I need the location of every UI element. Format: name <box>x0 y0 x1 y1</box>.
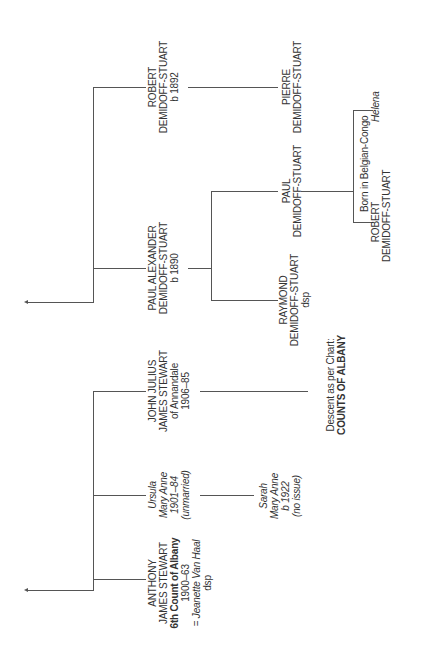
person-name: Sarah <box>258 444 269 548</box>
person-surname: JAMES STEWART <box>158 521 169 645</box>
connector <box>26 590 94 591</box>
person-surname: DEMIDOFF-STUART <box>158 204 169 332</box>
person-title: of Annandale <box>169 329 180 453</box>
person-title: 6th Count of Albany <box>169 521 180 645</box>
connector <box>301 191 353 192</box>
person-name: ROBERT <box>370 182 381 262</box>
bracket <box>353 110 354 223</box>
person-status: (no issue) <box>291 444 302 548</box>
person-surname: DEMIDOFF-STUART <box>381 182 392 262</box>
person-status: dsp <box>202 521 213 645</box>
person-surname: JAMES STEWART <box>158 329 169 453</box>
person-name: JOHN JULIUS <box>147 329 158 453</box>
person-anthony-james-stewart: ANTHONY JAMES STEWART 6th Count of Alban… <box>147 521 213 645</box>
person-middle-name: Mary Anne <box>269 444 280 548</box>
connector <box>93 87 94 303</box>
person-surname: DEMIDOFF-STUART <box>289 236 300 364</box>
person-dates: 1900–63 <box>180 521 191 645</box>
person-dates: b 1922 <box>280 444 291 548</box>
connector <box>211 300 278 301</box>
connector <box>188 268 212 269</box>
person-dates: dsp <box>300 236 311 364</box>
person-sarah-mary-anne: Sarah Mary Anne b 1922 (no issue) <box>258 444 302 548</box>
person-spouse: = Jeanette Van Haal <box>191 521 202 645</box>
person-surname: DEMIDOFF-STUART <box>158 24 169 150</box>
person-dates: b 1890 <box>169 204 180 332</box>
person-paul-alexander-demidoff-stuart: PAUL ALEXANDER DEMIDOFF-STUART b 1890 <box>147 204 180 332</box>
connector <box>93 268 146 269</box>
person-helena: Helena <box>370 92 381 122</box>
connector <box>93 87 146 88</box>
connector <box>200 495 254 496</box>
person-robert-demidoff-stuart-1892: ROBERT DEMIDOFF-STUART b 1892 <box>147 24 180 150</box>
note-descent-counts-of-albany: Descent as per Chart: COUNTS OF ALBANY <box>325 330 347 440</box>
connector <box>93 391 146 392</box>
connector <box>211 191 278 192</box>
connector <box>93 495 146 496</box>
connector <box>188 87 278 88</box>
connector <box>26 302 94 303</box>
person-name: ROBERT <box>147 24 158 150</box>
person-name: ANTHONY <box>147 521 158 645</box>
connector <box>93 579 146 580</box>
person-name: Helena <box>370 92 381 122</box>
person-name: PAUL ALEXANDER <box>147 204 158 332</box>
person-name: RAYMOND <box>278 236 289 364</box>
connector <box>93 391 94 591</box>
person-dates: b 1892 <box>169 24 180 150</box>
connector <box>211 191 212 301</box>
person-john-julius-james-stewart: JOHN JULIUS JAMES STEWART of Annandale 1… <box>147 329 191 453</box>
person-robert-demidoff-stuart-congo: ROBERT DEMIDOFF-STUART <box>370 182 392 262</box>
person-dates: 1906–85 <box>180 329 191 453</box>
note-born-in-belgian-congo: Born in Belgian-Congo <box>359 116 370 212</box>
person-raymond-demidoff-stuart: RAYMOND DEMIDOFF-STUART dsp <box>278 236 311 364</box>
connector <box>200 391 308 392</box>
